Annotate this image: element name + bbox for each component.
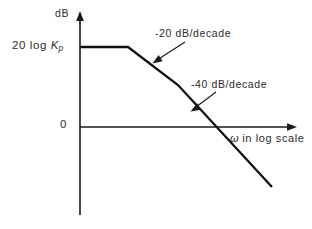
x-axis (80, 123, 297, 131)
y-axis-arrow-icon (76, 11, 84, 21)
plateau-gain-label: 20 log Kp (12, 40, 63, 52)
slope-second-label: -40 dB/decade (191, 79, 267, 90)
x-axis-omega-symbol: ω (230, 132, 239, 144)
y-axis (76, 11, 84, 215)
slope-first-label: -20 dB/decade (155, 28, 231, 39)
plateau-gain-subscript: p (58, 43, 63, 53)
x-axis-label: ω in log scale (230, 133, 304, 144)
x-axis-arrow-icon (287, 123, 297, 131)
slope-first-arrow-icon (153, 55, 163, 64)
bode-plot-figure: dB 20 log Kp 0 ω in log scale -20 dB/dec… (0, 0, 312, 229)
slope-second-leader-line (196, 92, 216, 107)
slope-first-leader (153, 42, 186, 64)
zero-db-tick-label: 0 (60, 119, 67, 131)
y-axis-unit-label: dB (55, 8, 69, 19)
magnitude-asymptote-curve (80, 47, 272, 187)
x-axis-label-rest: in log scale (239, 132, 305, 144)
plateau-gain-prefix: 20 log (12, 39, 51, 51)
slope-first-leader-line (158, 42, 185, 59)
